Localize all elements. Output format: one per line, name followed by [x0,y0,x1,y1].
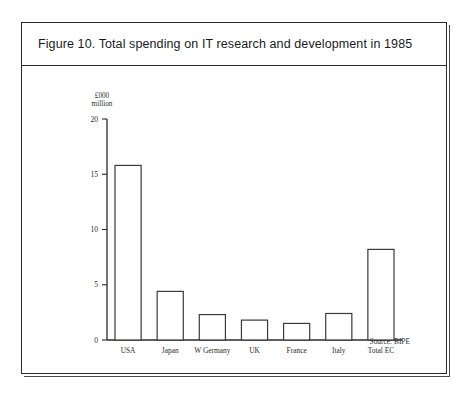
bar [368,249,394,340]
bar-chart-svg: 05101520 USAJapanW GermanyUKFranceItalyT… [22,66,446,373]
x-category-label: Italy [332,346,346,355]
figure-root: Figure 10. Total spending on IT research… [0,0,469,398]
x-category-label: UK [249,346,260,355]
chart-axes [107,119,402,340]
x-category-label: Total EC [368,346,394,355]
y-tick-label: 5 [94,280,98,289]
source-note: Source: BIPE [370,337,410,346]
bar [157,291,183,340]
y-axis-ticks: 05101520 [90,115,107,345]
bar [326,313,352,340]
y-tick-label: 10 [90,225,98,234]
x-category-label: Japan [162,346,179,355]
bar [199,315,225,340]
y-tick-label: 20 [90,115,98,124]
figure-title-bar: Figure 10. Total spending on IT research… [22,23,446,66]
bar [241,320,267,340]
x-category-label: France [287,346,308,355]
figure-outer-frame: Figure 10. Total spending on IT research… [21,22,447,374]
bar-series [115,165,394,340]
y-tick-label: 0 [94,336,98,345]
x-axis-category-labels: USAJapanW GermanyUKFranceItalyTotal EC [121,346,395,355]
y-tick-label: 15 [90,170,98,179]
bar [115,165,141,340]
page-title: Figure 10. Total spending on IT research… [22,37,412,51]
bar [284,323,310,340]
chart-plot-area: £000 million 05101520 USAJapanW GermanyU… [22,66,446,373]
x-category-label: USA [121,346,136,355]
x-category-label: W Germany [194,346,230,355]
